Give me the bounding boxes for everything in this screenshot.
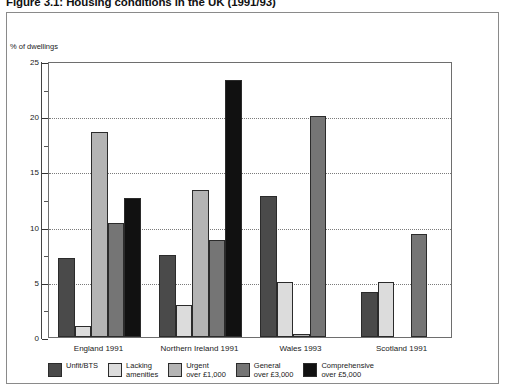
bar	[176, 305, 193, 337]
x-axis-label-3: Scotland 1991	[376, 344, 427, 353]
legend-item[interactable]: General over £3,000	[236, 362, 294, 379]
y-tick-20	[42, 118, 48, 119]
x-axis-category-labels: England 1991Northern Ireland 1991Wales 1…	[48, 344, 452, 358]
bar	[91, 132, 108, 337]
bar	[293, 334, 310, 337]
y-tick-label-10: 10	[13, 224, 39, 233]
legend-item[interactable]: Comprehensive over £5,000	[303, 362, 374, 379]
bar	[58, 258, 75, 337]
x-axis-label-2: Wales 1993	[280, 344, 322, 353]
bar	[260, 196, 277, 337]
x-axis-label-0: England 1991	[74, 344, 123, 353]
y-tick-minor-2.5	[44, 311, 48, 312]
y-tick-label-20: 20	[13, 113, 39, 122]
legend-label: Urgent over £1,000	[186, 362, 226, 379]
y-tick-5	[42, 284, 48, 285]
y-tick-minor-7.5	[44, 256, 48, 257]
legend-swatch-icon	[303, 363, 317, 377]
bar	[159, 255, 176, 337]
y-tick-0	[42, 339, 48, 340]
x-axis-label-1: Northern Ireland 1991	[161, 344, 239, 353]
bar	[361, 292, 378, 337]
gridline-15	[49, 173, 451, 174]
chart-legend: Unfit/BTSLacking amenitiesUrgent over £1…	[48, 362, 452, 386]
bar	[209, 240, 226, 337]
bar	[378, 282, 395, 337]
legend-item[interactable]: Unfit/BTS	[48, 362, 98, 377]
gridline-20	[49, 118, 451, 119]
y-tick-label-25: 25	[13, 58, 39, 67]
page-title: Figure 3.1: Housing conditions in the UK…	[6, 0, 276, 8]
plot-area: 0510152025	[48, 62, 452, 338]
bar	[108, 223, 125, 337]
y-tick-label-15: 15	[13, 168, 39, 177]
legend-label: Unfit/BTS	[66, 362, 98, 371]
bar	[75, 326, 92, 337]
bar	[411, 234, 428, 337]
y-tick-label-5: 5	[13, 279, 39, 288]
legend-swatch-icon	[168, 363, 182, 377]
bar	[192, 190, 209, 337]
y-axis-line	[41, 62, 42, 339]
legend-swatch-icon	[48, 363, 62, 377]
legend-item[interactable]: Lacking amenities	[108, 362, 158, 379]
bar	[310, 116, 327, 337]
y-tick-minor-22.5	[44, 91, 48, 92]
legend-item[interactable]: Urgent over £1,000	[168, 362, 226, 379]
y-tick-minor-17.5	[44, 146, 48, 147]
bar	[124, 198, 141, 337]
bar	[225, 80, 242, 337]
bar	[277, 282, 294, 337]
legend-label: Lacking amenities	[126, 362, 158, 379]
y-tick-25	[42, 63, 48, 64]
y-axis-title: % of dwellings	[10, 42, 58, 51]
legend-label: Comprehensive over £5,000	[321, 362, 374, 379]
legend-swatch-icon	[236, 363, 250, 377]
legend-swatch-icon	[108, 363, 122, 377]
y-tick-15	[42, 173, 48, 174]
y-tick-10	[42, 229, 48, 230]
legend-label: General over £3,000	[254, 362, 294, 379]
y-tick-label-0: 0	[13, 334, 39, 343]
y-tick-minor-12.5	[44, 201, 48, 202]
